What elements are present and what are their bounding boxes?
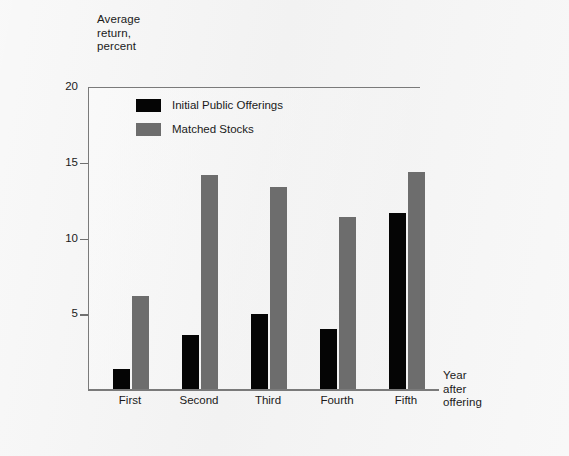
bar — [182, 335, 199, 390]
chart-legend: Initial Public OfferingsMatched Stocks — [136, 97, 283, 145]
bar — [270, 187, 287, 390]
legend-label: Initial Public Offerings — [172, 99, 283, 112]
bar — [132, 296, 149, 390]
y-axis-tick-labels: 5101520 — [30, 0, 78, 456]
y-axis-title: Average return, percent — [97, 13, 140, 54]
bar — [408, 172, 425, 390]
x-tick-label: First — [95, 393, 165, 407]
legend-label: Matched Stocks — [172, 123, 254, 136]
bar — [389, 213, 406, 390]
legend-item: Initial Public Offerings — [136, 97, 283, 113]
x-tick-label: Fifth — [371, 393, 441, 407]
legend-swatch-ipo — [136, 99, 161, 112]
y-tick-label: 10 — [38, 232, 78, 244]
y-tick-label: 5 — [38, 307, 78, 319]
bar — [320, 329, 337, 390]
y-tick-label: 20 — [38, 80, 78, 92]
bar — [113, 369, 130, 390]
x-axis-title: Year after offering — [443, 369, 482, 410]
bar-group — [320, 87, 356, 390]
x-tick-label: Fourth — [302, 393, 372, 407]
bar — [201, 175, 218, 390]
y-tick-label: 15 — [38, 156, 78, 168]
x-tick-label: Third — [233, 393, 303, 407]
bar-group — [389, 87, 425, 390]
bar — [251, 314, 268, 390]
bar-chart-figure: Average return, percent Year after offer… — [0, 0, 569, 456]
bar — [339, 217, 356, 390]
legend-swatch-matched — [136, 123, 161, 136]
x-tick-label: Second — [164, 393, 234, 407]
x-axis-line — [88, 389, 439, 391]
legend-item: Matched Stocks — [136, 121, 283, 137]
